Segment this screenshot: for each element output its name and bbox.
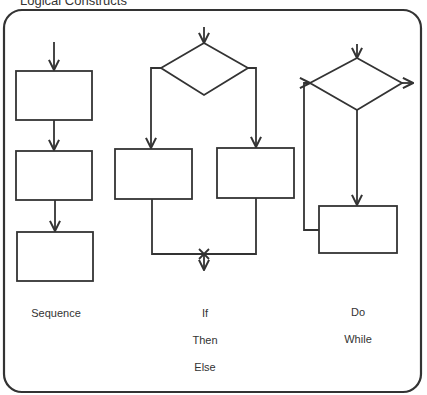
else-box [217,148,294,198]
if-decision-diamond [161,43,248,95]
do-box [319,206,397,253]
label-while: While [344,333,372,345]
label-if: If [202,307,208,319]
label-do: Do [351,306,365,318]
label-then: Then [192,334,217,346]
label-else: Else [194,361,215,373]
sequence-box-3 [17,232,93,281]
while-decision-diamond [310,58,402,110]
then-box [115,149,192,199]
if-then-else-construct [115,27,294,270]
do-while-construct [304,44,413,253]
sequence-box-2 [16,151,92,200]
sequence-box-1 [16,71,92,120]
label-sequence: Sequence [31,307,81,319]
sequence-construct [16,42,93,281]
